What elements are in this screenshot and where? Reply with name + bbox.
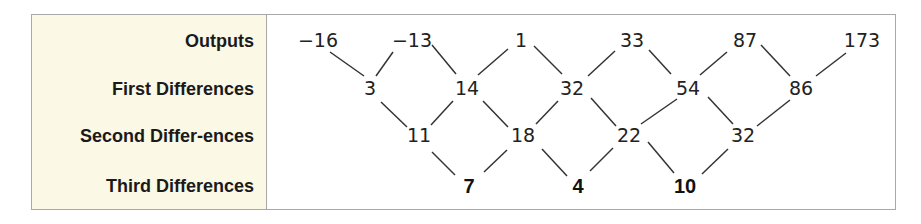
first-differences-row: 3 14 32 54 86 <box>364 77 813 99</box>
difference-diagram: −16 −13 1 33 87 173 3 14 32 54 86 11 18 … <box>0 0 921 224</box>
third-difference-value: 7 <box>463 175 474 197</box>
output-value: −13 <box>392 29 432 51</box>
second-differences-row: 11 18 22 32 <box>407 124 755 146</box>
third-differences-row: 7 4 10 <box>463 175 696 197</box>
first-difference-value: 32 <box>560 77 584 99</box>
third-difference-value: 10 <box>674 175 696 197</box>
third-difference-value: 4 <box>572 175 584 197</box>
second-difference-value: 11 <box>407 124 431 146</box>
first-difference-value: 54 <box>676 77 700 99</box>
output-value: 33 <box>620 29 644 51</box>
output-value: 87 <box>733 29 757 51</box>
output-value: 1 <box>515 29 527 51</box>
output-value: 173 <box>844 29 880 51</box>
first-difference-value: 3 <box>364 77 376 99</box>
first-difference-value: 14 <box>455 77 479 99</box>
second-difference-value: 22 <box>617 124 641 146</box>
second-difference-value: 18 <box>511 124 535 146</box>
outputs-row: −16 −13 1 33 87 173 <box>298 29 880 51</box>
connector-lines <box>330 45 846 176</box>
second-difference-value: 32 <box>731 124 755 146</box>
first-difference-value: 86 <box>789 77 813 99</box>
output-value: −16 <box>298 29 338 51</box>
